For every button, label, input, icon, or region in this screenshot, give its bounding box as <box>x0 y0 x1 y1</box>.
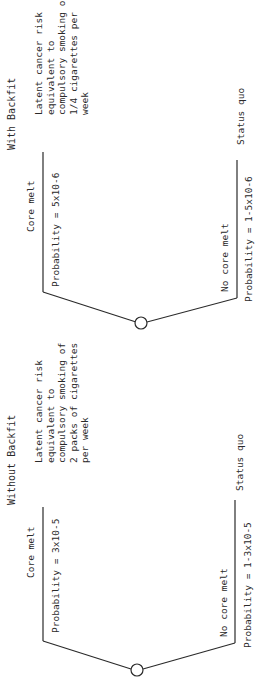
no-core-melt-outcome: Status quo <box>235 88 247 145</box>
tree-with-backfit-lines <box>43 152 237 329</box>
no-core-melt-label: No core melt <box>218 568 230 637</box>
core-melt-outcome: Latent cancer risk equivalent to compuls… <box>33 0 91 115</box>
no-core-melt-branch-diagonal <box>147 298 237 322</box>
no-core-melt-probability: Probability = 1-3x10-5 <box>242 522 254 648</box>
core-melt-label: Core melt <box>25 527 37 578</box>
decision-tree-figure: With Backfit Core melt Probability = 5x1… <box>0 0 268 692</box>
chance-node-icon <box>131 664 143 676</box>
core-melt-branch-diagonal <box>43 292 136 322</box>
chance-node-icon <box>135 317 147 329</box>
no-core-melt-branch-diagonal <box>143 643 235 669</box>
core-melt-branch-diagonal <box>43 641 131 669</box>
no-core-melt-label: No core melt <box>219 223 231 292</box>
tree-without-backfit-lines <box>43 500 235 676</box>
tree-title: With Backfit <box>6 78 18 150</box>
core-melt-probability: Probability = 5x10-6 <box>50 173 62 287</box>
core-melt-outcome: Latent cancer risk equivalent to compuls… <box>33 343 91 463</box>
core-melt-probability: Probability = 3x10-5 <box>50 519 62 633</box>
core-melt-label: Core melt <box>25 181 37 232</box>
no-core-melt-probability: Probability = 1-5x10-6 <box>243 176 255 302</box>
no-core-melt-outcome: Status quo <box>234 434 246 491</box>
tree-title: Without Backfit <box>6 415 18 505</box>
